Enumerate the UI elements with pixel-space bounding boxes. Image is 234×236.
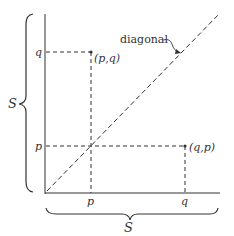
- arrowhead-icon: [175, 49, 181, 54]
- point-qp-label: (q,p): [189, 141, 215, 154]
- y-tick-p: p: [35, 140, 42, 153]
- y-set-label: S: [8, 96, 17, 111]
- diagonal-label: diagonal: [120, 33, 168, 46]
- left-brace: [19, 14, 33, 192]
- x-tick-p: p: [87, 195, 94, 208]
- y-tick-q: q: [35, 46, 42, 59]
- x-tick-q: q: [181, 195, 188, 208]
- point-pq: [89, 50, 92, 53]
- diagram-canvas: S (p,q) (q,p) q p p q diagonal S: [0, 0, 234, 236]
- point-qp: [183, 144, 186, 147]
- bottom-brace: [46, 208, 218, 220]
- point-pq-label: (p,q): [94, 52, 120, 65]
- x-set-label: S: [124, 220, 133, 235]
